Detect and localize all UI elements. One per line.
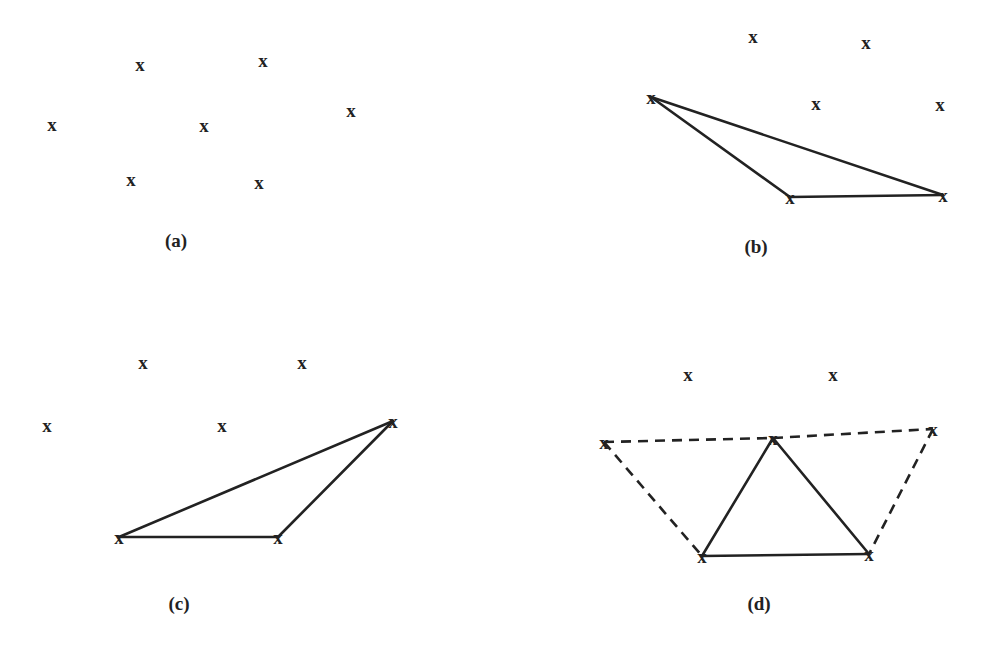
point-marker: x: [828, 364, 838, 385]
point-marker: x: [47, 114, 57, 135]
point-marker: x: [273, 527, 283, 548]
point-marker: x: [126, 169, 136, 190]
delaunay-construction-diagram: xxxxxxx(a) xxxxxxx(b) xxxxxxx(c) xxxxxxx…: [0, 0, 985, 645]
panel-d: xxxxxxx(d): [599, 364, 938, 616]
panel-caption: (b): [744, 236, 767, 258]
point-marker: x: [199, 115, 209, 136]
point-marker: x: [935, 94, 945, 115]
solid-edge: [278, 421, 393, 537]
solid-edge: [651, 97, 943, 195]
point-marker: x: [135, 54, 145, 75]
dashed-edge: [604, 442, 702, 556]
solid-edge: [773, 438, 869, 554]
point-marker: x: [217, 415, 227, 436]
point-marker: x: [697, 546, 707, 567]
panel-c: xxxxxxx(c): [42, 352, 398, 616]
dashed-edge: [869, 429, 933, 554]
point-marker: x: [768, 428, 778, 449]
panel-caption: (c): [168, 593, 189, 615]
point-marker: x: [258, 50, 268, 71]
point-marker: x: [748, 26, 758, 47]
point-marker: x: [388, 411, 398, 432]
solid-edge: [790, 195, 943, 197]
panel-caption: (d): [747, 593, 770, 615]
point-marker: x: [254, 172, 264, 193]
point-marker: x: [599, 432, 609, 453]
panel-caption: (a): [165, 230, 187, 252]
point-marker: x: [42, 415, 52, 436]
solid-edge: [702, 438, 773, 556]
point-marker: x: [785, 187, 795, 208]
solid-edge: [702, 554, 869, 556]
point-marker: x: [646, 87, 656, 108]
point-marker: x: [938, 185, 948, 206]
point-marker: x: [683, 364, 693, 385]
point-marker: x: [928, 419, 938, 440]
dashed-edge: [773, 429, 933, 438]
point-marker: x: [861, 32, 871, 53]
panel-a: xxxxxxx(a): [47, 50, 356, 253]
solid-edge: [651, 97, 790, 197]
dashed-edge: [604, 438, 773, 442]
solid-edge: [119, 421, 393, 537]
point-marker: x: [297, 352, 307, 373]
point-marker: x: [114, 527, 124, 548]
point-marker: x: [811, 93, 821, 114]
point-marker: x: [864, 544, 874, 565]
panel-b: xxxxxxx(b): [646, 26, 948, 259]
point-marker: x: [138, 352, 148, 373]
point-marker: x: [346, 100, 356, 121]
